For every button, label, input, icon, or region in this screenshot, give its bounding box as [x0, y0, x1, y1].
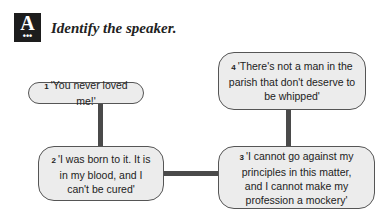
dots-icon: ••• — [14, 32, 41, 41]
quote-box-2: 2'I was born to it. It is in my blood, a… — [38, 146, 164, 201]
instruction-heading: Identify the speaker. — [51, 20, 176, 37]
quote-text: 'There's not a man in the parish that do… — [229, 60, 355, 102]
connector-1-2 — [98, 103, 103, 148]
quote-box-1: 1'You never loved me!' — [28, 82, 144, 104]
badge-letter: A — [14, 13, 41, 33]
quote-box-3: 3'I cannot go against my principles in t… — [218, 146, 375, 209]
quote-text: 'I cannot go against my principles in th… — [242, 150, 354, 206]
section-a-badge: A ••• — [14, 13, 41, 42]
quote-number: 2 — [52, 156, 56, 165]
quote-text: 'I was born to it. It is in my blood, an… — [58, 153, 150, 195]
quote-number: 3 — [239, 153, 243, 162]
connector-2-3 — [163, 171, 219, 176]
quote-number: 1 — [44, 82, 48, 91]
quote-text: 'You never loved me!' — [51, 79, 128, 107]
quote-number: 4 — [231, 63, 235, 72]
connector-4-3 — [286, 109, 291, 148]
quote-box-4: 4'There's not a man in the parish that d… — [218, 52, 366, 110]
